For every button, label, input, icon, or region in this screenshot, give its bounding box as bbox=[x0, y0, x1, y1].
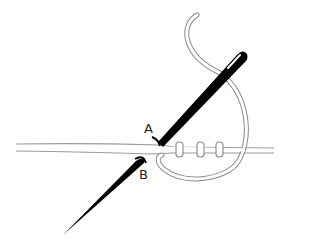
needle-lower bbox=[63, 157, 146, 235]
label-b: B bbox=[139, 168, 148, 181]
label-a: A bbox=[144, 122, 153, 135]
needle-upper bbox=[152, 51, 248, 147]
thread-wraps bbox=[176, 142, 223, 157]
wrap-2 bbox=[197, 142, 204, 157]
wrap-1 bbox=[176, 142, 183, 157]
wrap-3 bbox=[216, 142, 223, 157]
